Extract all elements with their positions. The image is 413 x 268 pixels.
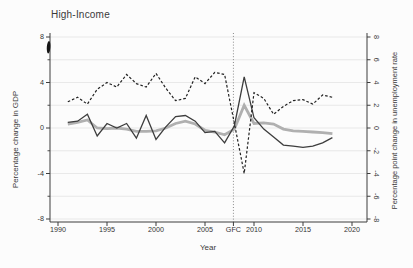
- y-tick-label-left: -8: [38, 214, 44, 223]
- y-tick-label-right: 6: [372, 58, 381, 62]
- x-tick-label: 2010: [246, 225, 262, 234]
- y-tick-label-right: 4: [372, 81, 381, 85]
- y-tick-label-right: -8: [372, 216, 381, 222]
- y-tick-label-right: 0: [372, 126, 381, 130]
- y-tick-label-left: -4: [38, 169, 44, 178]
- series-line-dashed-black: [68, 72, 333, 173]
- y-axis-title-left: Percentage change in GDP: [11, 60, 22, 220]
- x-tick-label: 2005: [197, 225, 213, 234]
- series-line-solid-gray-thick: [68, 105, 333, 135]
- figure: 840-4-886420-2-4-6-819901995200020052010…: [0, 0, 413, 268]
- series-line-solid-dark: [68, 77, 333, 148]
- chart-title: High-Income: [51, 9, 110, 20]
- x-tick-label: 2000: [148, 225, 164, 234]
- y-tick-label-right: -4: [372, 170, 381, 176]
- gfc-label: GFC: [226, 225, 241, 234]
- y-tick-label-right: -6: [372, 193, 381, 199]
- x-tick-label: 2015: [295, 225, 311, 234]
- x-tick-label: 1990: [50, 225, 66, 234]
- y-tick-label-left: 4: [40, 78, 44, 87]
- plot-canvas: 840-4-886420-2-4-6-819901995200020052010…: [0, 0, 413, 268]
- y-tick-label-right: 8: [372, 35, 381, 39]
- y-tick-label-left: 8: [40, 32, 44, 41]
- x-tick-label: 1995: [99, 225, 115, 234]
- y-tick-label-right: 2: [372, 103, 381, 107]
- y-axis-title-right: Percentage point change in unemployment …: [390, 31, 401, 231]
- x-axis-title: Year: [158, 243, 258, 252]
- y-tick-label-right: -2: [372, 148, 381, 154]
- y-tick-label-left: 0: [40, 123, 44, 132]
- x-tick-label: 2020: [344, 225, 360, 234]
